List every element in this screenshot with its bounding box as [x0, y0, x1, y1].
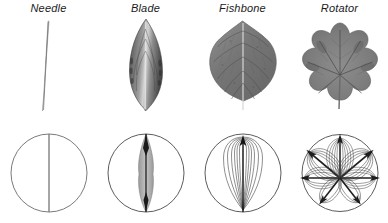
blade-schema-graphic [97, 126, 194, 221]
column-blade: Blade [97, 0, 194, 223]
blade-leaf-photo-graphic [97, 17, 194, 112]
leaf-venation-figure: Needle Blade [0, 0, 388, 223]
fishbone-leaf-photo-graphic [194, 17, 291, 112]
needle-schema [0, 126, 97, 221]
column-needle: Needle [0, 0, 97, 223]
column-fishbone: Fishbone [194, 0, 291, 223]
needle-leaf-photo-graphic [0, 17, 97, 112]
rotator-schema [291, 126, 388, 221]
needle-leaf-photo [0, 17, 97, 112]
rotator-leaf-photo [291, 17, 388, 112]
fishbone-schema-graphic [194, 126, 291, 221]
blade-leaf-photo [97, 17, 194, 112]
column-label-blade: Blade [97, 2, 194, 14]
needle-schema-graphic [0, 126, 97, 221]
column-rotator: Rotator [291, 0, 388, 223]
rotator-leaf-photo-graphic [291, 17, 388, 112]
column-label-fishbone: Fishbone [194, 2, 291, 14]
fishbone-leaf-photo [194, 17, 291, 112]
column-label-needle: Needle [0, 2, 97, 14]
blade-schema [97, 126, 194, 221]
fishbone-schema [194, 126, 291, 221]
rotator-schema-graphic [291, 126, 388, 221]
column-label-rotator: Rotator [291, 2, 388, 14]
